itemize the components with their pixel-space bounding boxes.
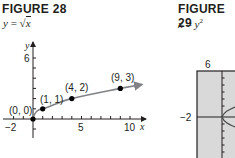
figure-28-graph: −2 5 10 x 6 y (0, 0) (1, 1) (4, 2) (9, 3…	[0, 0, 235, 158]
x-tick-label-10: 10	[124, 122, 136, 133]
x-tick-label-5: 5	[78, 122, 84, 133]
point-1-1	[40, 106, 45, 111]
x-tick-label-neg2: −2	[5, 122, 17, 133]
fig29-window	[197, 71, 235, 158]
fig29-x-label-neg2: −2	[180, 112, 192, 123]
point-9-3	[118, 86, 123, 91]
point-label-1-1: (1, 1)	[40, 94, 63, 105]
point-label-9-3: (9, 3)	[111, 72, 134, 83]
y-axis-label: y	[24, 40, 30, 51]
point-4-2	[69, 96, 74, 101]
fig29-y-label-6: 6	[205, 59, 211, 70]
point-label-0-0: (0, 0)	[9, 105, 32, 116]
y-tick-label-6: 6	[24, 53, 30, 64]
x-axis-label: x	[139, 121, 145, 132]
point-label-4-2: (4, 2)	[65, 82, 88, 93]
point-0-0	[30, 116, 35, 121]
